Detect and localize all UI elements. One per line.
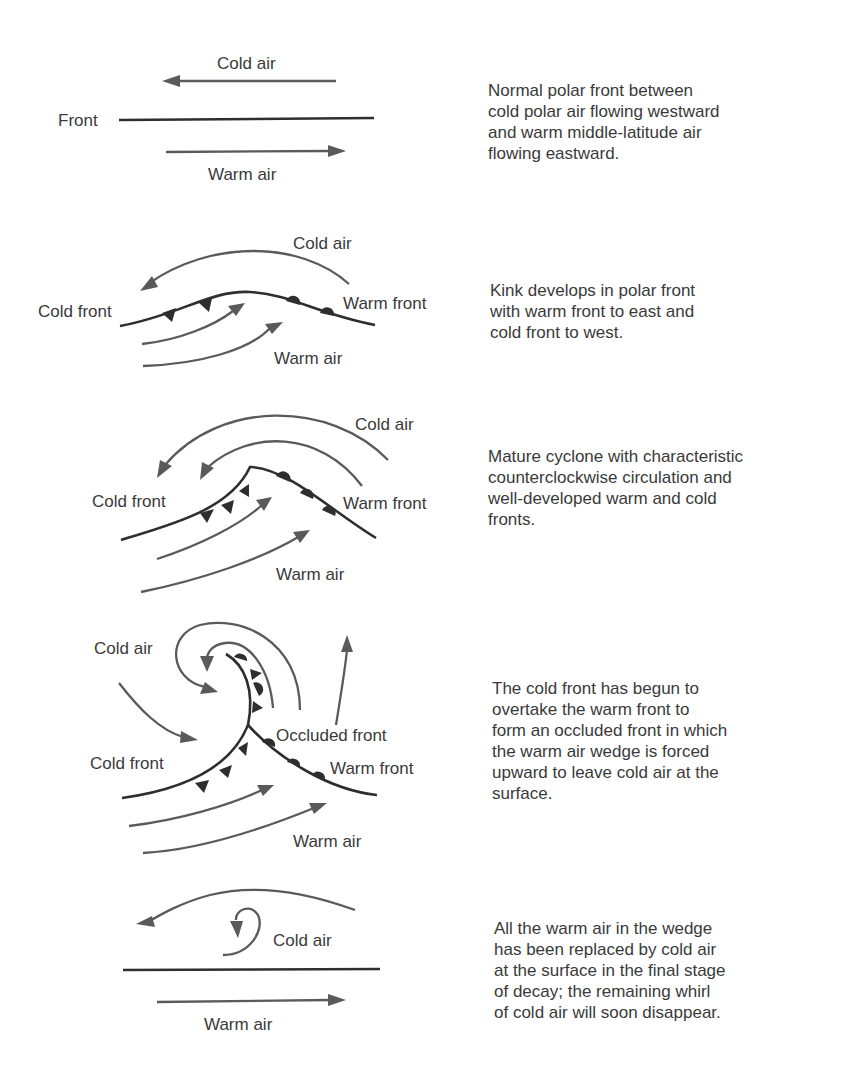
- panel-4-occlusion: Cold air Occluded front Cold front Warm …: [90, 623, 414, 853]
- label-cold-air: Cold air: [217, 54, 276, 73]
- arrowhead-icon: [157, 460, 172, 478]
- rising-warm-air-arrow: [336, 650, 347, 725]
- warm-front-semicircle-icon: [286, 296, 300, 305]
- description-stage-5: All the warm air in the wedge has been r…: [494, 918, 726, 1023]
- kinked-front-line: [120, 292, 375, 326]
- label-occluded-front: Occluded front: [276, 726, 387, 745]
- arrowhead-icon: [180, 731, 198, 743]
- warm-front-semicircle-icon: [320, 307, 334, 316]
- cold-front-triangle-icon: [238, 742, 248, 756]
- label-warm-air: Warm air: [208, 165, 277, 184]
- warm-front-semicircle-icon: [322, 506, 336, 516]
- panel-2-kink-develops: Cold air Cold front Warm front Warm air: [38, 234, 427, 368]
- cold-air-inflow-arrow: [119, 683, 183, 737]
- arrowhead-icon: [200, 682, 218, 694]
- panel-1-normal-polar-front: Cold air Front Warm air: [58, 54, 374, 184]
- label-cold-air: Cold air: [355, 415, 414, 434]
- description-stage-2: Kink develops in polar front with warm f…: [490, 280, 695, 343]
- arrowhead-icon: [200, 656, 214, 672]
- label-cold-air: Cold air: [94, 639, 153, 658]
- arrowhead-up-icon: [341, 635, 353, 652]
- occluded-semicircle-icon: [234, 654, 247, 661]
- label-warm-front: Warm front: [343, 494, 427, 513]
- label-cold-air: Cold air: [293, 234, 352, 253]
- inner-whirl-arrow: [207, 643, 273, 708]
- arrowhead-icon: [293, 530, 310, 543]
- arrowhead-icon: [230, 921, 243, 938]
- label-front: Front: [58, 111, 98, 130]
- arrowhead-east-icon: [328, 994, 346, 1006]
- front-line: [123, 969, 380, 970]
- cold-front-triangle-icon: [239, 484, 249, 497]
- cold-front-triangle-icon: [221, 500, 234, 514]
- arrowhead-icon: [265, 322, 283, 334]
- description-stage-1: Normal polar front between cold polar ai…: [488, 80, 720, 164]
- front-line: [119, 118, 374, 120]
- label-warm-air: Warm air: [204, 1015, 273, 1034]
- occluded-triangle-icon: [250, 669, 262, 680]
- warm-air-arrow: [129, 790, 262, 826]
- label-cold-front: Cold front: [92, 492, 166, 511]
- arrowhead-icon: [309, 803, 327, 814]
- label-warm-air: Warm air: [293, 832, 362, 851]
- cold-air-arrow: [148, 251, 349, 284]
- panel-3-mature-cyclone: Cold air Cold front Warm front Warm air: [92, 415, 427, 592]
- warm-air-arrow: [157, 1000, 330, 1002]
- warm-front-semicircle-icon: [300, 489, 314, 499]
- label-cold-front: Cold front: [38, 302, 112, 321]
- occluded-front-line: [226, 654, 250, 725]
- occluded-semicircle-icon: [253, 682, 263, 696]
- label-cold-front: Cold front: [90, 754, 164, 773]
- cold-air-arrow: [148, 890, 355, 922]
- label-warm-front: Warm front: [343, 294, 427, 313]
- label-cold-air: Cold air: [273, 931, 332, 950]
- warm-air-arrow: [143, 328, 270, 366]
- arrowhead-east-icon: [328, 145, 346, 157]
- label-warm-air: Warm air: [274, 349, 343, 368]
- description-stage-3: Mature cyclone with characteristic count…: [488, 446, 743, 530]
- whirl-arrow: [223, 909, 260, 955]
- occluded-triangle-icon: [252, 701, 263, 713]
- label-warm-air: Warm air: [276, 565, 345, 584]
- outer-whirl-arrow: [176, 623, 300, 710]
- cold-front-triangle-icon: [219, 765, 232, 778]
- arrowhead-west-icon: [162, 75, 180, 87]
- warm-air-arrow: [143, 808, 314, 853]
- description-stage-4: The cold front has begun to overtake the…: [492, 678, 727, 804]
- label-warm-front: Warm front: [330, 759, 414, 778]
- arrowhead-icon: [136, 916, 155, 927]
- cold-front-triangle-icon: [195, 780, 209, 793]
- warm-air-arrow: [166, 151, 330, 152]
- panel-5-dissipation: Cold air Warm air: [123, 890, 380, 1034]
